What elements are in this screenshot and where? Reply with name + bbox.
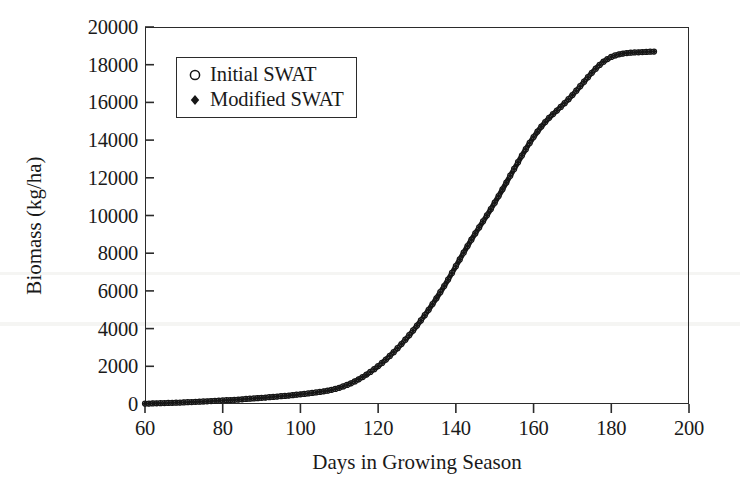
x-axis-tick-label: 80 <box>188 418 258 439</box>
chart-legend: Initial SWAT Modified SWAT <box>176 57 357 118</box>
x-axis-tick-label: 140 <box>421 418 491 439</box>
x-axis-tick-label: 160 <box>499 418 569 439</box>
legend-label-modified-swat: Modified SWAT <box>210 89 344 110</box>
legend-label-initial-swat: Initial SWAT <box>210 64 316 85</box>
x-axis-tick-label: 200 <box>654 418 724 439</box>
open-circle-marker-icon <box>186 66 204 84</box>
legend-item-initial-swat: Initial SWAT <box>186 62 344 87</box>
x-axis-tick-label: 120 <box>343 418 413 439</box>
x-axis-title: Days in Growing Season <box>145 452 689 473</box>
legend-item-modified-swat: Modified SWAT <box>186 87 344 112</box>
x-axis-tick-label: 100 <box>265 418 335 439</box>
filled-diamond-marker-icon <box>186 91 204 109</box>
biomass-growth-chart: Biomass (kg/ha) 020004000600080001000012… <box>0 0 740 494</box>
x-axis-tick-label: 60 <box>110 418 180 439</box>
x-axis-tick-label: 180 <box>576 418 646 439</box>
